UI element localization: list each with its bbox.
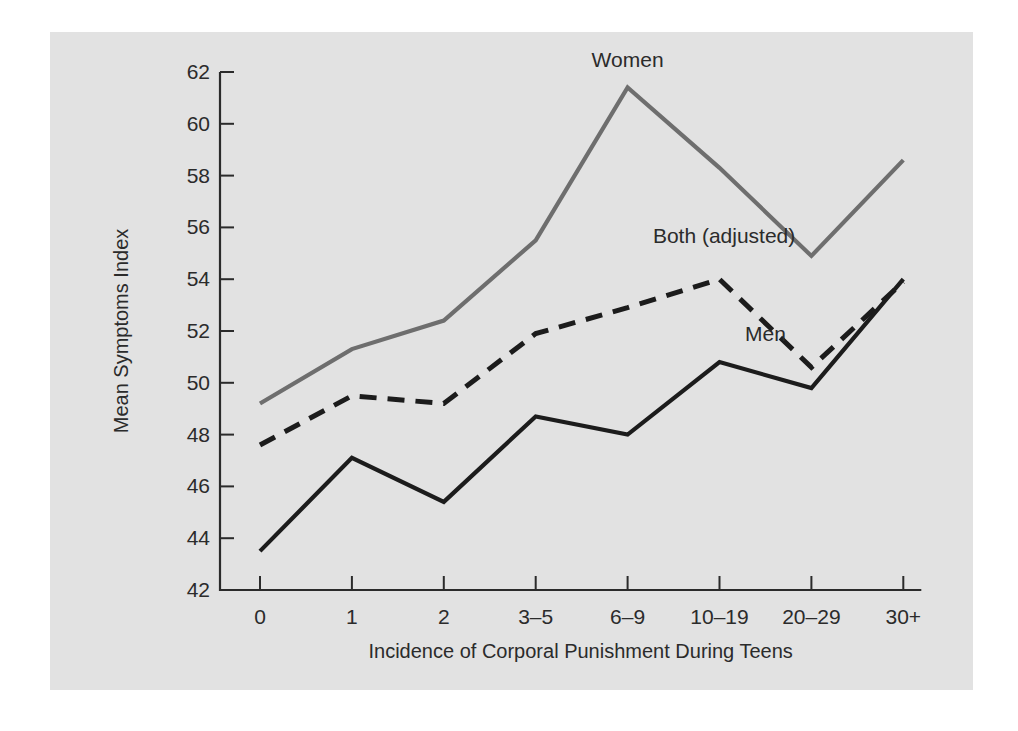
axes-group: 42444648505254565860620123–56–910–1920–2… (187, 60, 922, 628)
series-annotation-women: Women (592, 48, 664, 71)
y-tick-label: 58 (187, 164, 210, 187)
y-tick-label: 50 (187, 371, 210, 394)
x-tick-label: 1 (346, 605, 358, 628)
annotation-group: WomenBoth (adjusted)Men (592, 48, 796, 346)
x-tick-label: 3–5 (518, 605, 553, 628)
x-tick-label: 2 (438, 605, 450, 628)
y-tick-label: 44 (187, 526, 211, 549)
y-tick-label: 42 (187, 578, 210, 601)
y-tick-label: 52 (187, 319, 210, 342)
y-tick-label: 62 (187, 60, 210, 83)
y-tick-label: 54 (187, 267, 211, 290)
series-annotation-men: Men (745, 322, 786, 345)
x-tick-label: 20–29 (782, 605, 840, 628)
series-group (260, 88, 903, 552)
y-axis-title: Mean Symptoms Index (110, 229, 132, 434)
x-axis-title: Incidence of Corporal Punishment During … (368, 640, 792, 662)
axis-label-group: Incidence of Corporal Punishment During … (110, 229, 793, 662)
x-tick-label: 6–9 (610, 605, 645, 628)
series-line-men (260, 279, 903, 551)
y-tick-label: 56 (187, 215, 210, 238)
x-tick-label: 0 (254, 605, 266, 628)
series-annotation-both-adjusted: Both (adjusted) (653, 224, 795, 247)
x-tick-label: 30+ (885, 605, 921, 628)
x-tick-label: 10–19 (690, 605, 748, 628)
chart-plot-svg: 42444648505254565860620123–56–910–1920–2… (0, 0, 1018, 731)
chart-figure: 42444648505254565860620123–56–910–1920–2… (0, 0, 1018, 731)
y-tick-label: 48 (187, 423, 210, 446)
series-line-both-adjusted (260, 279, 903, 445)
y-tick-label: 46 (187, 474, 210, 497)
y-tick-label: 60 (187, 112, 210, 135)
series-line-women (260, 88, 903, 404)
axis-spine (220, 72, 921, 590)
